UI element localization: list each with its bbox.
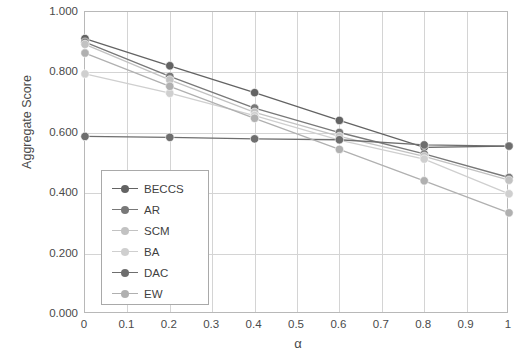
chart-container: Aggregate Score 0.0000.2000.4000.6000.80… bbox=[0, 0, 526, 362]
x-tick-label: 0.1 bbox=[118, 318, 134, 330]
x-tick-label: 0.4 bbox=[246, 318, 262, 330]
legend-item-ba[interactable]: BA bbox=[102, 241, 208, 262]
x-tick-label: 1 bbox=[505, 318, 511, 330]
data-point bbox=[505, 190, 513, 198]
y-tick-label: 0.200 bbox=[16, 247, 78, 259]
x-tick-label: 0.9 bbox=[458, 318, 474, 330]
series-ar bbox=[81, 38, 513, 182]
series-line bbox=[85, 39, 509, 148]
x-tick-label: 0 bbox=[81, 318, 87, 330]
chart-legend: BECCSARSCMBADACEW bbox=[101, 170, 209, 305]
x-axis-title: α bbox=[0, 336, 526, 351]
x-axis-title-text: α bbox=[224, 336, 302, 351]
data-point bbox=[166, 82, 174, 90]
legend-item-ew[interactable]: EW bbox=[102, 283, 208, 304]
y-tick-label: 0.600 bbox=[16, 126, 78, 138]
legend-item-label: BECCS bbox=[144, 183, 184, 195]
legend-marker-icon bbox=[112, 204, 138, 216]
data-point bbox=[505, 209, 513, 217]
data-point bbox=[166, 133, 174, 141]
legend-marker-icon bbox=[112, 267, 138, 279]
legend-item-dac[interactable]: DAC bbox=[102, 262, 208, 283]
data-point bbox=[250, 135, 258, 143]
legend-item-label: BA bbox=[144, 246, 159, 258]
series-line bbox=[85, 42, 509, 177]
series-scm bbox=[81, 40, 513, 184]
data-point bbox=[505, 142, 513, 150]
y-tick-label: 1.000 bbox=[16, 5, 78, 17]
data-point bbox=[505, 176, 513, 184]
legend-item-ar[interactable]: AR bbox=[102, 199, 208, 220]
data-point bbox=[335, 145, 343, 153]
data-point bbox=[250, 114, 258, 122]
data-point bbox=[420, 141, 428, 149]
legend-item-scm[interactable]: SCM bbox=[102, 220, 208, 241]
x-tick-label: 0.8 bbox=[415, 318, 431, 330]
legend-marker-icon bbox=[112, 183, 138, 195]
data-point bbox=[81, 40, 89, 48]
legend-item-label: SCM bbox=[144, 225, 170, 237]
y-tick-label: 0.400 bbox=[16, 186, 78, 198]
x-tick-label: 0.5 bbox=[288, 318, 304, 330]
y-tick-label: 0.000 bbox=[16, 307, 78, 319]
y-tick-label: 0.800 bbox=[16, 65, 78, 77]
x-tick-label: 0.3 bbox=[203, 318, 219, 330]
data-point bbox=[420, 177, 428, 185]
legend-item-label: DAC bbox=[144, 267, 168, 279]
series-line bbox=[85, 136, 509, 146]
data-point bbox=[335, 116, 343, 124]
legend-item-beccs[interactable]: BECCS bbox=[102, 178, 208, 199]
data-point bbox=[250, 88, 258, 96]
legend-item-label: AR bbox=[144, 204, 160, 216]
legend-marker-icon bbox=[112, 225, 138, 237]
data-point bbox=[81, 70, 89, 78]
legend-marker-icon bbox=[112, 288, 138, 300]
data-point bbox=[335, 136, 343, 144]
data-point bbox=[81, 49, 89, 57]
data-point bbox=[166, 62, 174, 70]
legend-item-label: EW bbox=[144, 288, 163, 300]
legend-marker-icon bbox=[112, 246, 138, 258]
x-tick-label: 0.2 bbox=[161, 318, 177, 330]
data-point bbox=[81, 132, 89, 140]
x-tick-label: 0.7 bbox=[373, 318, 389, 330]
x-tick-label: 0.6 bbox=[330, 318, 346, 330]
data-point bbox=[420, 155, 428, 163]
